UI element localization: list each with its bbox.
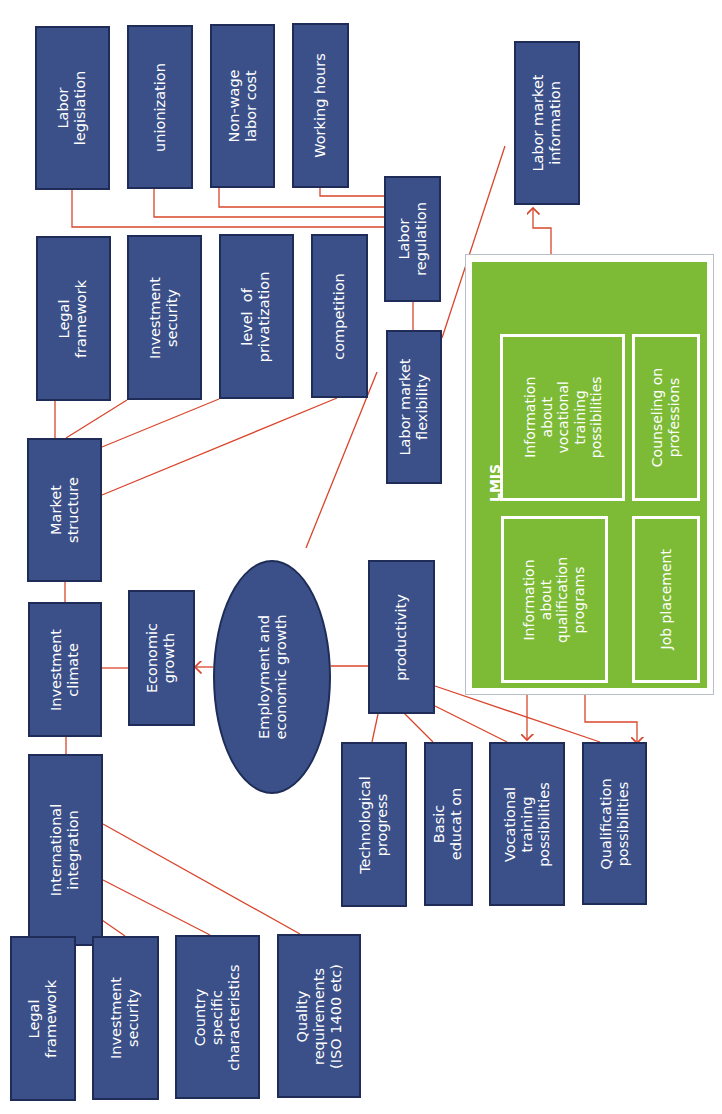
market-legal-framework-label: Legal framework bbox=[57, 279, 91, 357]
labor-market-flexibility-node: Labor market flexibility bbox=[386, 330, 442, 484]
market-investment-security-node: Investment security bbox=[127, 235, 202, 400]
labor-regulation-node: Labor regulation bbox=[384, 176, 441, 302]
technological-progress-label: Technological progress bbox=[357, 776, 391, 874]
lmis-vocational-info-node: Information about vocational training po… bbox=[500, 334, 625, 501]
unionization-label: unionization bbox=[152, 63, 169, 152]
working-hours-node: Working hours bbox=[292, 23, 349, 188]
technological-progress-node: Technological progress bbox=[341, 742, 407, 907]
international-integration-node: International integration bbox=[28, 754, 103, 946]
non-wage-labor-cost-node: Non-wage labor cost bbox=[210, 24, 275, 188]
employment-economic-growth-label: Employment and economic growth bbox=[255, 614, 289, 739]
quality-requirements-label: Quality requirements (ISO 1400 etc) bbox=[294, 964, 345, 1069]
productivity-label: productivity bbox=[393, 594, 410, 681]
competition-node: competition bbox=[311, 234, 368, 398]
diagram-canvas: Labor legislation unionization Non-wage … bbox=[0, 0, 722, 1114]
market-investment-security-label: Investment security bbox=[148, 276, 182, 358]
productivity-node: productivity bbox=[368, 560, 435, 714]
non-wage-labor-cost-label: Non-wage labor cost bbox=[226, 69, 260, 142]
employment-economic-growth-node: Employment and economic growth bbox=[213, 560, 331, 794]
quality-requirements-node: Quality requirements (ISO 1400 etc) bbox=[277, 934, 361, 1098]
basic-education-node: Basic educat on bbox=[424, 742, 473, 906]
intl-legal-framework-label: Legal framework bbox=[26, 979, 60, 1057]
labor-regulation-label: Labor regulation bbox=[396, 202, 430, 276]
country-specific-characteristics-label: Country specific characteristics bbox=[192, 964, 243, 1070]
lmis-job-placement-node: Job placement bbox=[632, 516, 700, 683]
intl-investment-security-node: Investment security bbox=[92, 936, 159, 1100]
economic-growth-node: Economic growth bbox=[128, 590, 195, 726]
labor-legislation-node: Labor legislation bbox=[35, 26, 110, 190]
labor-market-information-label: Labor market information bbox=[530, 74, 564, 171]
lmis-qualification-info-node: Information about qualification programs bbox=[501, 516, 608, 683]
international-integration-label: International integration bbox=[49, 804, 83, 897]
market-legal-framework-node: Legal framework bbox=[36, 236, 111, 401]
intl-investment-security-label: Investment security bbox=[109, 977, 143, 1059]
qualification-possibilities-node: Qualification possibilities bbox=[582, 742, 647, 905]
lmis-vocational-info-label: Information about vocational training po… bbox=[521, 377, 604, 459]
labor-market-flexibility-label: Labor market flexibility bbox=[397, 358, 431, 455]
intl-legal-framework-node: Legal framework bbox=[10, 936, 76, 1101]
labor-market-information-node: Labor market information bbox=[514, 41, 580, 205]
labor-legislation-label: Labor legislation bbox=[56, 71, 90, 145]
qualification-possibilities-label: Qualification possibilities bbox=[598, 778, 632, 869]
lmis-job-placement-label: Job placement bbox=[658, 549, 675, 649]
level-of-privatization-node: level of privatization bbox=[219, 234, 294, 399]
vocational-training-label: Vocational training possibilities bbox=[502, 782, 553, 867]
basic-education-label: Basic educat on bbox=[432, 788, 466, 861]
level-of-privatization-label: level of privatization bbox=[240, 271, 274, 362]
vocational-training-node: Vocational training possibilities bbox=[489, 742, 565, 906]
unionization-node: unionization bbox=[127, 25, 193, 189]
competition-label: competition bbox=[331, 273, 348, 360]
lmis-qualification-info-label: Information about qualification programs bbox=[522, 556, 588, 642]
investment-climate-label: Investment climate bbox=[48, 628, 82, 710]
working-hours-label: Working hours bbox=[312, 53, 329, 158]
economic-growth-label: Economic growth bbox=[145, 623, 179, 693]
market-structure-label: Market structure bbox=[48, 477, 82, 543]
lmis-counseling-node: Counseling on professions bbox=[632, 334, 700, 501]
country-specific-characteristics-node: Country specific characteristics bbox=[175, 935, 260, 1099]
market-structure-node: Market structure bbox=[27, 438, 102, 582]
investment-climate-node: Investment climate bbox=[28, 602, 102, 737]
lmis-counseling-label: Counseling on professions bbox=[650, 368, 683, 467]
